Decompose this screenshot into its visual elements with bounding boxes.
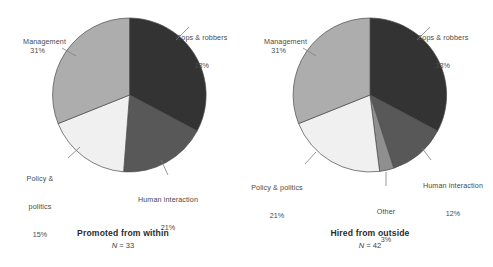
pie-chart-left: Management 31% Cops & robbers 33% Human …: [0, 0, 246, 200]
n-value: = 33: [117, 241, 134, 250]
leader-line-human: [422, 148, 431, 160]
label-other: Other 3%: [360, 188, 412, 263]
label-cops-robbers: Cops & robbers 33%: [417, 14, 468, 89]
label-human-interaction: Human interaction 12%: [413, 162, 493, 237]
caption-title: Promoted from within: [0, 228, 246, 238]
caption-hired-from-outside: Hired from outside N = 42: [247, 228, 493, 250]
pie-chart-right: Management 31% Cops & robbers 33% Human …: [247, 0, 493, 200]
leader-line-policy: [305, 152, 316, 164]
panel-promoted-from-within: Management 31% Cops & robbers 33% Human …: [0, 0, 246, 267]
panel-hired-from-outside: Management 31% Cops & robbers 33% Human …: [247, 0, 493, 267]
pie-chart-figure: Management 31% Cops & robbers 33% Human …: [0, 0, 493, 267]
label-cops-robbers: Cops & robbers 33%: [176, 14, 227, 89]
caption-promoted-from-within: Promoted from within N = 33: [0, 228, 246, 250]
caption-title: Hired from outside: [247, 228, 493, 238]
n-value: = 42: [364, 241, 381, 250]
caption-sample-size: N = 42: [247, 241, 493, 250]
caption-sample-size: N = 33: [0, 241, 246, 250]
